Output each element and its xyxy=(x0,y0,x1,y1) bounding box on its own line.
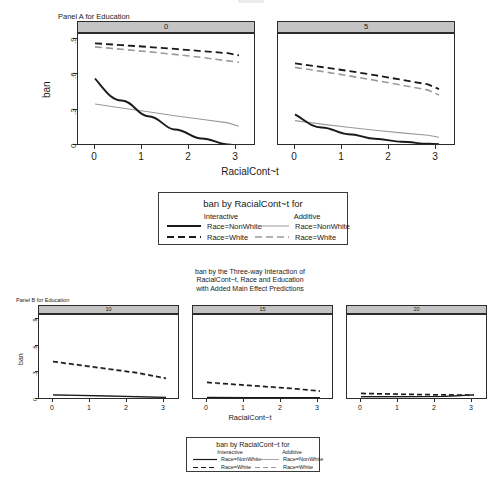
panel-b-caption: Panel B for Education xyxy=(16,298,69,304)
panel-b-p20-xlabel-3: 3 xyxy=(465,404,477,411)
panel-a-p5-xlabel-2: 2 xyxy=(380,152,396,162)
panel-a-p0-xlabel-0: 0 xyxy=(86,152,102,162)
figure-title: ban by the Three-way Interaction of Raci… xyxy=(0,268,500,293)
legend-top-label-interactive-nonwhite: Race=NonWhite xyxy=(207,223,262,231)
panel-b-plot-10-lines xyxy=(39,315,179,399)
panel-a-strip-5: 5 xyxy=(277,21,455,33)
panel-b-p10-xtick-1 xyxy=(89,399,90,402)
legend-bottom-key-additive-nonwhite xyxy=(255,457,279,462)
legend-top-label-additive-white: Race=White xyxy=(295,234,336,242)
legend-top: ban by RacialCont~t for Interactive Addi… xyxy=(158,192,348,245)
panel-b-p10-xlabel-0: 0 xyxy=(46,404,58,411)
panel-a-p5-xtick-1 xyxy=(341,145,342,149)
panel-b-p15-xtick-2 xyxy=(280,399,281,402)
panel-b-p20-xlabel-0: 0 xyxy=(354,404,366,411)
panel-a-xlabel: RacialCont~t xyxy=(0,167,500,177)
panel-b-p20-xlabel-2: 2 xyxy=(428,404,440,411)
panel-a-p0-xtick-3 xyxy=(235,145,236,149)
panel-b-p20-xtick-1 xyxy=(397,399,398,402)
panel-a-plot-education-5 xyxy=(277,33,455,145)
legend-bottom: ban by RacialCont~t for Interactive Addi… xyxy=(186,437,320,472)
top-artifact xyxy=(238,0,264,3)
panel-a-p5-xlabel-3: 3 xyxy=(427,152,443,162)
panel-b-ytick-label-0: 0 xyxy=(33,398,39,401)
panel-a-strip-5-label: 5 xyxy=(364,23,368,31)
panel-b-p10-xlabel-2: 2 xyxy=(120,404,132,411)
legend-bottom-title: ban by RacialCont~t for xyxy=(187,441,319,448)
legend-top-key-additive-nonwhite xyxy=(255,223,289,229)
panel-b-p20-xlabel-1: 1 xyxy=(391,404,403,411)
panel-b-strip-15-label: 15 xyxy=(259,307,265,313)
panel-a-strip-0-label: 0 xyxy=(164,23,168,31)
panel-a-p0-xtick-0 xyxy=(94,145,95,149)
panel-b-strip-15: 15 xyxy=(192,305,333,314)
panel-b-p10-xtick-0 xyxy=(52,399,53,402)
legend-top-key-additive-white xyxy=(255,234,289,240)
panel-a-p0-xtick-1 xyxy=(141,145,142,149)
legend-bottom-key-interactive-white xyxy=(193,465,217,470)
panel-a-ytick-label-0: 0 xyxy=(70,144,78,148)
legend-bottom-label-additive-nonwhite: Race=NonWhite xyxy=(283,457,323,463)
panel-b-ytick-label-2: .6 xyxy=(33,345,39,350)
panel-a-ylabel: ban xyxy=(42,81,52,98)
panel-b-p15-xlabel-2: 2 xyxy=(274,404,286,411)
panel-a-p0-xlabel-1: 1 xyxy=(133,152,149,162)
panel-b-p15-xlabel-3: 3 xyxy=(311,404,323,411)
legend-bottom-label-interactive-white: Race=White xyxy=(221,465,251,471)
legend-top-key-interactive-white xyxy=(167,234,201,240)
legend-top-col-additive: Additive xyxy=(267,213,347,221)
panel-b-p15-xlabel-0: 0 xyxy=(200,404,212,411)
panel-a-caption: Panel A for Education xyxy=(58,13,130,21)
panel-b-plot-education-20 xyxy=(346,314,487,399)
panel-b-p15-xlabel-1: 1 xyxy=(237,404,249,411)
panel-b-plot-20-lines xyxy=(347,315,487,399)
panel-a-p5-xtick-0 xyxy=(294,145,295,149)
panel-a-plot-education-0 xyxy=(77,33,255,145)
panel-b-ytick-label-3: .9 xyxy=(33,318,39,323)
panel-b-p20-xtick-3 xyxy=(471,399,472,402)
legend-top-col-interactive: Interactive xyxy=(181,213,261,221)
panel-b-p15-xtick-3 xyxy=(317,399,318,402)
panel-a-p0-xlabel-3: 3 xyxy=(227,152,243,162)
panel-a-p0-xlabel-2: 2 xyxy=(180,152,196,162)
panel-b-p20-xtick-0 xyxy=(360,399,361,402)
legend-bottom-col-additive: Additive xyxy=(263,450,321,456)
panel-b-p15-xtick-0 xyxy=(206,399,207,402)
legend-top-label-interactive-white: Race=White xyxy=(207,234,248,242)
panel-a-p5-xtick-2 xyxy=(388,145,389,149)
panel-a-ytick-label-2: .6 xyxy=(70,72,78,79)
panel-b-strip-20: 20 xyxy=(346,305,487,314)
panel-b-p10-xlabel-1: 1 xyxy=(83,404,95,411)
panel-a-plot-0-lines xyxy=(78,34,255,145)
panel-b-p10-xtick-2 xyxy=(126,399,127,402)
legend-top-title: ban by RacialCont~t for xyxy=(159,199,347,209)
panel-b-ytick-label-1: .3 xyxy=(33,371,39,376)
panel-a-p5-xtick-3 xyxy=(435,145,436,149)
panel-b-xlabel: RacialCont~t xyxy=(0,414,500,422)
panel-b-strip-10-label: 10 xyxy=(105,307,111,313)
panel-b-strip-20-label: 20 xyxy=(413,307,419,313)
panel-b-p15-xtick-1 xyxy=(243,399,244,402)
panel-a-ytick-label-3: .9 xyxy=(70,37,78,44)
legend-bottom-key-interactive-nonwhite xyxy=(193,457,217,462)
panel-b-plot-education-10 xyxy=(38,314,179,399)
panel-b-p10-xlabel-3: 3 xyxy=(157,404,169,411)
panel-a-strip-0: 0 xyxy=(77,21,255,33)
panel-b-strip-10: 10 xyxy=(38,305,179,314)
legend-bottom-label-additive-white: Race=White xyxy=(283,465,313,471)
panel-a-p0-xtick-2 xyxy=(188,145,189,149)
panel-b-p10-xtick-3 xyxy=(163,399,164,402)
panel-a-ytick-label-1: .3 xyxy=(70,108,78,115)
legend-top-label-additive-nonwhite: Race=NonWhite xyxy=(295,223,350,231)
legend-bottom-col-interactive: Interactive xyxy=(201,450,259,456)
panel-b-p20-xtick-2 xyxy=(434,399,435,402)
panel-b-plot-education-15 xyxy=(192,314,333,399)
panel-b-plot-15-lines xyxy=(193,315,333,399)
panel-a-p5-xlabel-1: 1 xyxy=(333,152,349,162)
legend-top-key-interactive-nonwhite xyxy=(167,223,201,229)
legend-bottom-key-additive-white xyxy=(255,465,279,470)
panel-a-plot-5-lines xyxy=(278,34,455,145)
panel-a-p5-xlabel-0: 0 xyxy=(286,152,302,162)
panel-b-ylabel: ban xyxy=(17,353,24,365)
